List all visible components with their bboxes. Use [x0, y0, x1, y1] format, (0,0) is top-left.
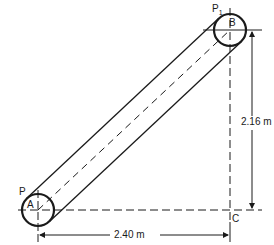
- label-p1: P1: [212, 4, 223, 16]
- label-p: P: [19, 187, 26, 197]
- label-b: B: [229, 18, 236, 28]
- label-a: A: [27, 200, 34, 210]
- pipe-centerline: [38, 30, 230, 210]
- label-c: C: [232, 214, 239, 224]
- diagram-canvas: [0, 0, 274, 245]
- label-p1-base: P: [212, 3, 219, 14]
- dimension-label-horizontal: 2.40 m: [112, 230, 147, 240]
- label-p1-sub: 1: [219, 9, 223, 16]
- dimension-label-vertical: 2.16 m: [239, 117, 274, 127]
- pipe-diagram: P A P1 B C 2.16 m 2.40 m: [0, 0, 274, 245]
